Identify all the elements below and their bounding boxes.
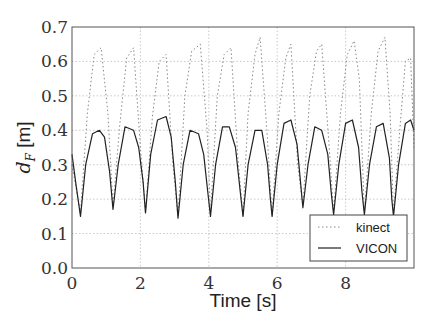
x-tick-label: 2 (135, 273, 146, 293)
y-tick-label: 0.7 (41, 17, 68, 37)
y-tick-label: 0.3 (41, 155, 68, 175)
legend-kinect-label: kinect (356, 220, 390, 235)
line-chart: 0.00.10.20.30.40.50.60.7 02468 Time [s] … (0, 0, 429, 331)
series-group (72, 37, 414, 218)
series-kinect (72, 37, 414, 216)
y-axis-label-main: d (12, 161, 34, 173)
y-axis-label: dF [m] (12, 121, 38, 173)
x-tick-label: 8 (340, 273, 351, 293)
y-axis-ticks: 0.00.10.20.30.40.50.60.7 (41, 17, 68, 278)
legend-vicon-label: VICON (356, 241, 397, 256)
y-tick-label: 0.6 (41, 51, 68, 71)
y-tick-label: 0.0 (41, 258, 68, 278)
series-vicon (72, 117, 414, 219)
y-tick-label: 0.4 (41, 120, 68, 140)
x-axis-label: Time [s] (210, 290, 277, 311)
y-tick-label: 0.5 (41, 86, 68, 106)
y-axis-label-unit: [m] (13, 121, 34, 153)
y-tick-label: 0.2 (41, 189, 68, 209)
y-tick-label: 0.1 (41, 224, 68, 244)
legend: kinect VICON (310, 215, 407, 261)
x-tick-label: 0 (67, 273, 78, 293)
